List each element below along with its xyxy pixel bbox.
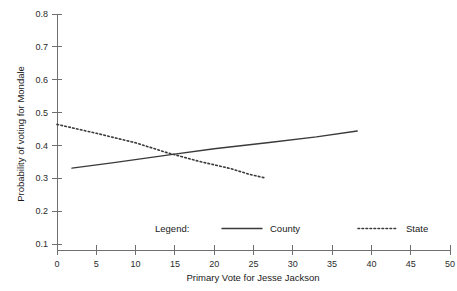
x-tick-label: 0 [54,259,59,269]
y-tick-label: 0.3 [35,173,48,183]
y-axis-label: Probability of voting for Mondale [15,66,26,202]
legend-label-state: State [406,223,428,234]
x-tick-label: 35 [327,259,337,269]
x-axis-label: Primary Vote for Jesse Jackson [186,272,319,283]
axis-group [57,14,450,250]
y-tick-label: 0.4 [35,141,48,151]
x-tick-label: 20 [209,259,219,269]
y-tick-label: 0.1 [35,239,48,249]
legend-label-county: County [270,223,300,234]
y-tick-group: 0.10.20.30.40.50.60.70.8 [35,9,62,249]
x-tick-group: 05101520253035404550 [54,245,455,269]
legend-title: Legend: [155,223,189,234]
series-group [57,124,357,178]
x-tick-label: 25 [248,259,258,269]
legend: Legend: County State [155,223,428,234]
series-line-county [72,131,357,168]
chart-figure: 0.10.20.30.40.50.60.70.8 051015202530354… [0,0,457,291]
x-tick-label: 5 [94,259,99,269]
y-tick-label: 0.6 [35,75,48,85]
x-tick-label: 15 [170,259,180,269]
y-tick-label: 0.2 [35,206,48,216]
x-tick-label: 30 [288,259,298,269]
x-tick-label: 50 [445,259,455,269]
x-tick-label: 45 [406,259,416,269]
x-tick-label: 10 [131,259,141,269]
y-tick-label: 0.7 [35,42,48,52]
x-tick-label: 40 [366,259,376,269]
y-tick-label: 0.8 [35,9,48,19]
line-chart-canvas: 0.10.20.30.40.50.60.70.8 051015202530354… [0,0,457,291]
y-tick-label: 0.5 [35,108,48,118]
series-line-state [57,124,265,178]
